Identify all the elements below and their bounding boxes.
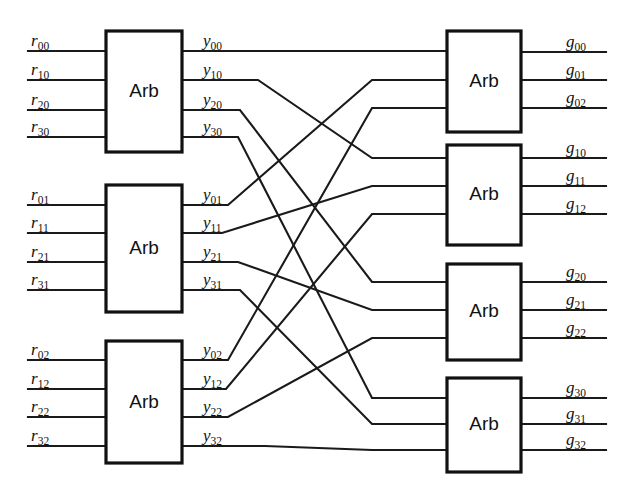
label-g01: g01 [566, 60, 586, 81]
label-g02: g02 [566, 88, 586, 109]
label-g10: g10 [566, 138, 586, 159]
label-r12: r12 [31, 369, 49, 390]
label-y00: y00 [201, 31, 222, 52]
left-arb-boxes: Arb Arb Arb [106, 31, 182, 463]
label-y02: y02 [201, 340, 222, 361]
arbiter-interconnect-diagram: Arb Arb Arb Arb Arb Arb Arb r00 [0, 0, 630, 498]
y-signal-labels: y00 y10 y20 y30 y01 y11 y21 y31 y02 y12 … [201, 31, 222, 447]
label-g31-sub: 31 [575, 413, 587, 425]
arb-box-right-3[interactable]: Arb [447, 378, 521, 472]
label-g00: g00 [566, 32, 586, 53]
arb-box-right-1[interactable]: Arb [447, 145, 521, 245]
label-r00-sub: 00 [38, 40, 50, 52]
label-r12-sub: 12 [38, 378, 50, 390]
label-r10-sub: 10 [38, 69, 50, 81]
label-g12-sub: 12 [575, 203, 587, 215]
label-g11-sub: 11 [575, 175, 586, 187]
label-r22-sub: 22 [38, 406, 50, 418]
label-y12: y12 [201, 369, 222, 390]
label-g02-sub: 02 [575, 97, 587, 109]
label-y11-sub: 11 [211, 222, 222, 234]
label-r21: r21 [31, 242, 49, 263]
label-y31-sub: 31 [211, 279, 223, 291]
label-y00-sub: 00 [211, 40, 223, 52]
label-g30: g30 [566, 378, 586, 399]
label-g22-sub: 22 [575, 327, 587, 339]
label-y10: y10 [201, 60, 222, 81]
label-g11: g11 [566, 166, 586, 187]
arb-box-left-1[interactable]: Arb [106, 185, 182, 312]
label-g20-sub: 20 [575, 271, 587, 283]
label-g31: g31 [566, 404, 586, 425]
label-y30-sub: 30 [211, 126, 223, 138]
label-y22: y22 [201, 397, 222, 418]
arb-box-left-0-label: Arb [129, 80, 159, 101]
label-y31: y31 [201, 270, 222, 291]
label-y32-sub: 32 [211, 435, 223, 447]
label-g12: g12 [566, 194, 586, 215]
label-y20-sub: 20 [211, 99, 223, 111]
arb-box-right-1-label: Arb [469, 183, 499, 204]
label-r00: r00 [31, 31, 49, 52]
label-g10-sub: 10 [575, 147, 587, 159]
label-g30-sub: 30 [575, 387, 587, 399]
arb-box-right-0[interactable]: Arb [447, 31, 521, 132]
label-y21-sub: 21 [211, 251, 223, 263]
label-r20: r20 [31, 90, 49, 111]
label-y11: y11 [201, 213, 222, 234]
wire-y10 [182, 80, 447, 158]
label-r02: r02 [31, 340, 49, 361]
r-signal-labels: r00 r10 r20 r30 r01 r11 r21 r31 r02 r12 … [31, 31, 49, 447]
arb-box-left-1-label: Arb [129, 237, 159, 258]
label-g32-sub: 32 [575, 439, 587, 451]
label-r30: r30 [31, 117, 49, 138]
label-r30-sub: 30 [38, 126, 50, 138]
arb-box-right-0-label: Arb [469, 70, 499, 91]
label-g21: g21 [566, 290, 586, 311]
label-g21-sub: 21 [575, 299, 587, 311]
label-r02-sub: 02 [38, 349, 50, 361]
arb-box-right-2-label: Arb [469, 300, 499, 321]
label-y12-sub: 12 [211, 378, 223, 390]
label-r21-sub: 21 [38, 251, 50, 263]
label-r31-sub: 31 [38, 279, 50, 291]
label-g20: g20 [566, 262, 586, 283]
arb-box-right-3-label: Arb [469, 413, 499, 434]
label-r11-sub: 11 [38, 222, 49, 234]
arb-box-right-2[interactable]: Arb [447, 264, 521, 360]
label-g32: g32 [566, 430, 586, 451]
label-r11: r11 [31, 213, 49, 234]
label-y10-sub: 10 [211, 69, 223, 81]
label-r01-sub: 01 [38, 194, 50, 206]
label-g00-sub: 00 [575, 41, 587, 53]
label-g22: g22 [566, 318, 586, 339]
label-r32: r32 [31, 426, 49, 447]
label-r32-sub: 32 [38, 435, 50, 447]
arb-box-left-2[interactable]: Arb [106, 341, 182, 463]
label-y01: y01 [201, 185, 222, 206]
label-r01: r01 [31, 185, 49, 206]
label-y01-sub: 01 [211, 194, 223, 206]
label-r22: r22 [31, 397, 49, 418]
label-y02-sub: 02 [211, 349, 223, 361]
arb-box-left-0[interactable]: Arb [106, 31, 182, 152]
right-output-wires [521, 52, 606, 450]
label-y22-sub: 22 [211, 406, 223, 418]
label-r10: r10 [31, 60, 49, 81]
label-y21: y21 [201, 242, 222, 263]
label-g01-sub: 01 [575, 69, 587, 81]
wire-y12 [182, 214, 447, 389]
arb-box-left-2-label: Arb [129, 391, 159, 412]
right-arb-boxes: Arb Arb Arb Arb [447, 31, 521, 472]
label-y30: y30 [201, 117, 222, 138]
label-r31: r31 [31, 270, 49, 291]
g-signal-labels: g00 g01 g02 g10 g11 g12 g20 g21 g22 g30 … [566, 32, 586, 451]
label-y32: y32 [201, 426, 222, 447]
label-y20: y20 [201, 90, 222, 111]
label-r20-sub: 20 [38, 99, 50, 111]
